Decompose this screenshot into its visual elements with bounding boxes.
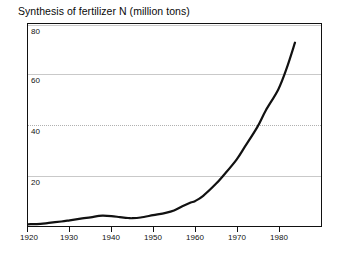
x-tick-1950 bbox=[153, 227, 154, 232]
x-tick-label-1930: 1930 bbox=[60, 234, 78, 242]
x-tick-label-1960: 1960 bbox=[186, 234, 204, 242]
x-tick-label-1950: 1950 bbox=[144, 234, 162, 242]
x-tick-label-1920: 1920 bbox=[20, 234, 38, 242]
x-tick-label-1970: 1970 bbox=[228, 234, 246, 242]
x-tick-1970 bbox=[237, 227, 238, 232]
x-tick-label-1940: 1940 bbox=[102, 234, 120, 242]
plot-frame: 80 60 40 20 bbox=[27, 23, 322, 227]
data-curve bbox=[28, 24, 320, 225]
x-tick-1960 bbox=[195, 227, 196, 232]
x-tick-1940 bbox=[111, 227, 112, 232]
x-tick-1920 bbox=[27, 227, 28, 232]
x-tick-1980 bbox=[279, 227, 280, 232]
chart-title: Synthesis of fertilizer N (million tons) bbox=[18, 5, 190, 17]
chart-figure: Synthesis of fertilizer N (million tons)… bbox=[0, 0, 338, 257]
plot-area: 80 60 40 20 bbox=[28, 24, 321, 226]
x-tick-1930 bbox=[69, 227, 70, 232]
x-tick-label-1980: 1980 bbox=[270, 234, 288, 242]
